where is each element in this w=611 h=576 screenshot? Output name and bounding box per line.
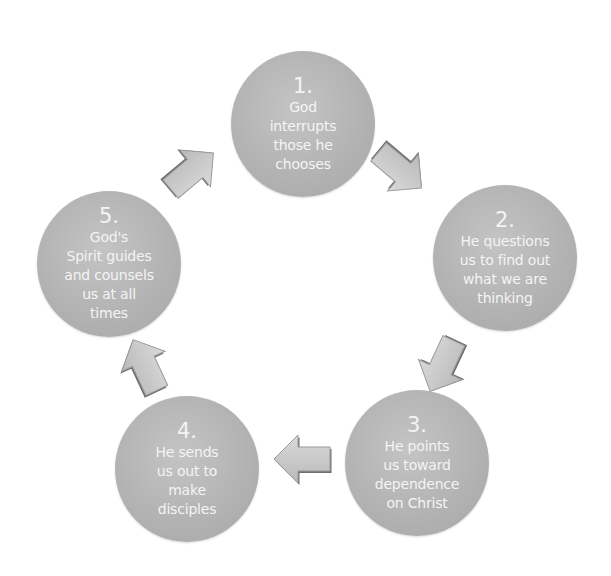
node-number: 2. xyxy=(495,209,515,231)
node-label-line: chooses xyxy=(270,155,337,174)
node-label: God's Spirit guides and counsels us at a… xyxy=(64,228,154,323)
cycle-node-5: 5. God's Spirit guides and counsels us a… xyxy=(37,191,181,337)
node-number: 1. xyxy=(293,75,313,97)
cycle-diagram: 1. God interrupts those he chooses 2. He… xyxy=(0,0,611,576)
node-label-line: on Christ xyxy=(375,494,460,513)
node-number: 5. xyxy=(99,205,119,227)
node-label-line: times xyxy=(64,304,154,323)
node-label-line: He points xyxy=(375,437,460,456)
up-right-arrow-icon xyxy=(149,129,234,213)
node-label-line: and counsels xyxy=(64,266,154,285)
node-label-line: make xyxy=(156,481,219,500)
node-number: 4. xyxy=(177,420,197,442)
node-label: He points us toward dependence on Christ xyxy=(375,437,460,513)
node-label-line: He questions xyxy=(460,232,550,251)
cycle-node-1: 1. God interrupts those he chooses xyxy=(231,51,375,197)
node-label-line: us toward xyxy=(375,456,460,475)
node-label-line: interrupts xyxy=(270,117,337,136)
cycle-node-2: 2. He questions us to find out what we a… xyxy=(433,185,577,331)
node-label-line: what we are xyxy=(460,270,550,289)
node-label: He questions us to find out what we are … xyxy=(460,232,550,308)
node-label: God interrupts those he chooses xyxy=(270,98,337,174)
node-label-line: He sends xyxy=(156,443,219,462)
node-label-line: us out to xyxy=(156,462,219,481)
node-label-line: us at all xyxy=(64,285,154,304)
node-label-line: God xyxy=(270,98,337,117)
node-label-line: Spirit guides xyxy=(64,247,154,266)
node-label-line: thinking xyxy=(460,289,550,308)
left-arrow-icon xyxy=(270,431,334,487)
node-label: He sends us out to make disciples xyxy=(156,443,219,519)
node-label-line: us to find out xyxy=(460,251,550,270)
node-label-line: those he xyxy=(270,136,337,155)
cycle-node-3: 3. He points us toward dependence on Chr… xyxy=(345,390,489,536)
node-label-line: God's xyxy=(64,228,154,247)
cycle-node-4: 4. He sends us out to make disciples xyxy=(115,396,259,542)
node-number: 3. xyxy=(407,414,427,436)
node-label-line: disciples xyxy=(156,500,219,519)
node-label-line: dependence xyxy=(375,475,460,494)
